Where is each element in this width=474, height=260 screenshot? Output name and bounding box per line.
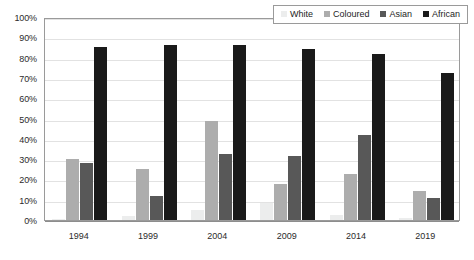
y-axis-tick-label: 50% (19, 115, 37, 125)
legend-label: White (290, 9, 313, 19)
bar-asian-2009 (288, 156, 301, 220)
legend-item-asian[interactable]: Asian (380, 9, 412, 19)
bar-chart: 0%10%20%30%40%50%60%70%80%90%100% WhiteC… (0, 0, 474, 260)
y-axis-tick-label: 0% (24, 216, 37, 226)
bar-group-1999 (122, 19, 177, 220)
bar-group-2009 (260, 19, 315, 220)
legend-swatch-icon (281, 11, 287, 17)
chart-legend: WhiteColouredAsianAfrican (273, 5, 468, 24)
bar-coloured-2014 (344, 174, 357, 220)
legend-label: Asian (389, 9, 412, 19)
bar-asian-2014 (358, 135, 371, 220)
bar-white-2019 (399, 218, 412, 220)
x-axis-tick-label: 1999 (138, 231, 158, 241)
bar-white-1994 (52, 219, 65, 220)
y-axis-tick-label: 70% (19, 74, 37, 84)
bar-asian-2004 (219, 154, 232, 220)
legend-item-african[interactable]: African (423, 9, 460, 19)
plot-area (44, 18, 460, 221)
bar-group-2014 (330, 19, 385, 220)
bar-coloured-2004 (205, 121, 218, 220)
x-axis-tick-label: 2019 (415, 231, 435, 241)
y-axis-tick-label: 90% (19, 33, 37, 43)
y-axis-tick-label: 20% (19, 175, 37, 185)
bar-african-2009 (302, 49, 315, 220)
y-axis-tick-label: 80% (19, 54, 37, 64)
bar-coloured-2009 (274, 184, 287, 220)
bar-white-2014 (330, 215, 343, 220)
y-axis-tick-label: 30% (19, 155, 37, 165)
bar-african-1999 (164, 45, 177, 220)
bar-african-2019 (441, 73, 454, 220)
legend-swatch-icon (423, 11, 429, 17)
legend-label: African (432, 9, 460, 19)
bar-white-2009 (260, 203, 273, 220)
legend-swatch-icon (380, 11, 386, 17)
legend-swatch-icon (324, 11, 330, 17)
bar-african-1994 (94, 47, 107, 220)
bar-white-2004 (191, 210, 204, 220)
bar-group-2004 (191, 19, 246, 220)
y-axis: 0%10%20%30%40%50%60%70%80%90%100% (0, 18, 41, 221)
bars-layer (45, 19, 459, 220)
bar-african-2004 (233, 45, 246, 220)
y-axis-tick-label: 40% (19, 135, 37, 145)
bar-asian-1999 (150, 196, 163, 220)
bar-white-1999 (122, 216, 135, 220)
legend-label: Coloured (333, 9, 370, 19)
x-axis-tick-label: 2004 (207, 231, 227, 241)
bar-african-2014 (372, 54, 385, 220)
x-axis-tick-label: 2014 (346, 231, 366, 241)
bar-coloured-2019 (413, 191, 426, 220)
y-axis-tick-label: 100% (14, 13, 37, 23)
y-axis-tick-label: 60% (19, 94, 37, 104)
x-axis-tick-label: 2009 (277, 231, 297, 241)
x-axis: 199419992004200920142019 (44, 222, 460, 246)
bar-asian-2019 (427, 198, 440, 220)
y-axis-tick-label: 10% (19, 196, 37, 206)
legend-item-coloured[interactable]: Coloured (324, 9, 370, 19)
bar-asian-1994 (80, 163, 93, 220)
bar-group-2019 (399, 19, 454, 220)
legend-item-white[interactable]: White (281, 9, 313, 19)
bar-coloured-1999 (136, 169, 149, 220)
x-axis-tick-label: 1994 (69, 231, 89, 241)
bar-coloured-1994 (66, 159, 79, 220)
bar-group-1994 (52, 19, 107, 220)
